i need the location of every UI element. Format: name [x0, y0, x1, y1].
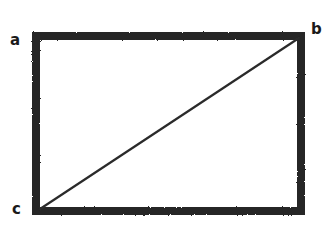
vertex-label-b: b: [311, 22, 322, 37]
vertex-label-c: c: [12, 202, 21, 217]
vertex-label-a: a: [10, 33, 20, 48]
diagonal-segment-cb: [40, 38, 299, 209]
rectangle-diagonal-diagram: [0, 0, 333, 231]
figure-canvas: a b c: [0, 0, 333, 231]
